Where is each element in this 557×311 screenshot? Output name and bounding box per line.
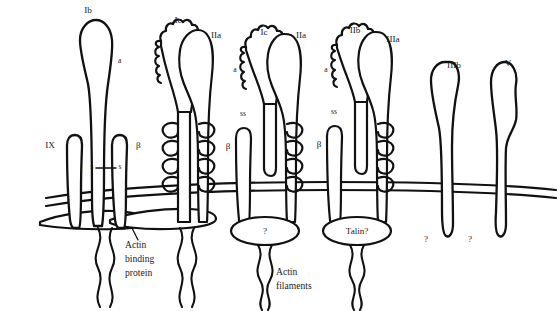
label-disulfide-right: s bbox=[119, 162, 122, 171]
label-ss-3: ss bbox=[331, 107, 337, 116]
gpiib-alpha-stem bbox=[355, 102, 367, 174]
label-ss-2: ss bbox=[240, 109, 246, 118]
label-tail-iiib-unknown: ? bbox=[424, 234, 428, 244]
receptor-diagram-svg: Ib a IX β s s Ic IIa Ic IIa a ss β IIb I… bbox=[0, 0, 557, 311]
gpbeta-chain-2 bbox=[236, 128, 251, 228]
gpalpha-stem-2 bbox=[264, 104, 276, 176]
label-beta-3: β bbox=[317, 139, 322, 149]
diagram-canvas: Ib a IX β s s Ic IIa Ic IIa a ss β IIb I… bbox=[0, 0, 557, 311]
label-gp-ic-2: Ic bbox=[260, 27, 267, 37]
label-actin-filaments-line1: Actin bbox=[276, 266, 298, 277]
label-anchor-talin: Talin? bbox=[346, 226, 368, 236]
label-anchor-unknown: ? bbox=[263, 226, 267, 236]
label-gp-ib-beta: β bbox=[136, 140, 141, 150]
gpix-chain bbox=[67, 135, 82, 228]
label-gp-iiib: IIIb bbox=[447, 60, 461, 70]
label-gp-ic-1: Ic bbox=[174, 15, 181, 25]
label-abp-line3: protein bbox=[125, 267, 152, 278]
label-disulfide-left: s bbox=[91, 162, 94, 171]
label-actin-filaments-line2: filaments bbox=[276, 280, 312, 291]
label-gp-iia-2: IIa bbox=[296, 30, 306, 40]
label-gp-iiia: IIIa bbox=[386, 34, 399, 44]
label-tail-v-unknown: ? bbox=[468, 234, 472, 244]
gpiib-beta-chain bbox=[327, 126, 342, 228]
label-abp-line1: Actin bbox=[125, 239, 147, 250]
label-gp-iib: IIb bbox=[350, 25, 361, 35]
label-gp-iia-1: IIa bbox=[211, 30, 221, 40]
gpib-beta-chain bbox=[112, 135, 127, 228]
label-gp-v: V bbox=[505, 58, 512, 68]
label-gp-ib: Ib bbox=[84, 5, 92, 15]
gpic-stem-1 bbox=[178, 112, 190, 222]
label-beta-2: β bbox=[226, 141, 231, 151]
label-gp-ix: IX bbox=[45, 140, 55, 150]
label-abp-line2: binding bbox=[125, 253, 155, 264]
